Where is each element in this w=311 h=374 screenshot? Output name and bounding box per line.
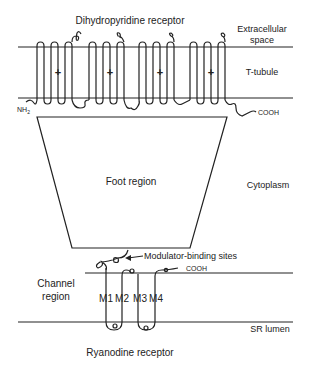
dhpr-n-terminus: [26, 100, 37, 104]
voltage-sensor-charge: +: [107, 66, 113, 78]
modulator-arrow-head: [125, 255, 131, 261]
foot-region-label: Foot region: [106, 176, 157, 187]
nh2-label: NH2: [17, 106, 30, 115]
ec-coupling-diagram: + + + + Dihydropyridine receptor Extrace…: [0, 0, 311, 374]
m3-label: M3: [133, 293, 147, 304]
m2-label: M2: [115, 293, 129, 304]
extracellular-loop: [170, 33, 175, 42]
extracellular-label: Extracellular: [237, 24, 287, 34]
intracellular-linker-1-2: [72, 100, 89, 108]
dhpr-cooh-label: COOH: [258, 109, 279, 116]
dhpr-title: Dihydropyridine receptor: [76, 15, 186, 26]
dhpr-c-terminus: [225, 100, 256, 116]
extracellular-loop: [72, 32, 81, 42]
intracellular-linker-2-3: [124, 100, 139, 110]
voltage-sensor-charge: +: [208, 66, 214, 78]
modulator-label: Modulator-binding sites: [144, 251, 238, 261]
extracellular-loop: [221, 33, 225, 42]
m1-label: M1: [99, 293, 113, 304]
sr-lumen-label: SR lumen: [250, 324, 290, 334]
voltage-sensor-charge: +: [55, 66, 61, 78]
extracellular-loop: [117, 33, 124, 42]
t-tubule-label: T-tubule: [246, 67, 279, 77]
ryr-title: Ryanodine receptor: [86, 347, 174, 358]
ryr-cooh-label: COOH: [186, 265, 207, 272]
intracellular-linker-3-4: [174, 100, 190, 105]
lumen-loop-bead: [113, 324, 117, 328]
modulator-binding-tangle: [96, 250, 128, 270]
m4-label: M4: [149, 293, 163, 304]
channel-label: Channel: [37, 278, 74, 289]
extracellular-label-2: space: [250, 35, 274, 45]
channel-label-2: region: [42, 291, 70, 302]
cytoplasm-label: Cytoplasm: [247, 180, 290, 190]
voltage-sensor-charge: +: [157, 66, 163, 78]
